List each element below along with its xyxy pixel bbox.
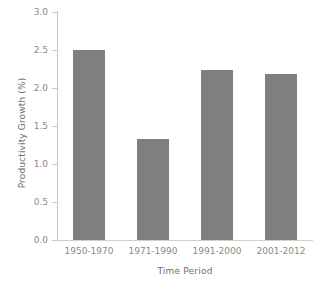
bar — [137, 139, 169, 240]
y-tick-label: 3.0 — [10, 8, 48, 17]
y-tick-label: 0.0 — [10, 236, 48, 245]
bar — [265, 74, 297, 240]
y-tick-label: 2.0 — [10, 84, 48, 93]
y-tick-mark — [52, 240, 57, 241]
x-tick-label: 1950-1970 — [57, 246, 121, 256]
plot-area — [57, 12, 313, 240]
x-tick-label: 2001-2012 — [249, 246, 313, 256]
y-axis-title: Productivity Growth (%) — [17, 43, 27, 223]
y-tick-label: 1.0 — [10, 160, 48, 169]
y-tick-label: 2.5 — [10, 46, 48, 55]
x-axis-spine — [57, 240, 313, 241]
y-tick-label: 1.5 — [10, 122, 48, 131]
y-tick-label: 0.5 — [10, 198, 48, 207]
x-axis-title: Time Period — [57, 266, 313, 276]
x-tick-label: 1991-2000 — [185, 246, 249, 256]
bar-chart-figure: Productivity Growth (%) 0.00.51.01.52.02… — [0, 0, 321, 289]
x-tick-label: 1971-1990 — [121, 246, 185, 256]
bar — [201, 70, 233, 240]
bar — [73, 50, 105, 240]
